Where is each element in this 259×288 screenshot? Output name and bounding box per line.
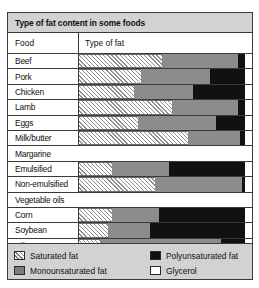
table-row: Emulsified	[8, 162, 252, 177]
glycerol-swatch-icon	[150, 266, 161, 275]
chart-legend: Saturated fat Polyunsaturated fat Monoun…	[8, 243, 252, 279]
bar-segment-gly	[245, 116, 252, 130]
row-label-beef: Beef	[8, 54, 78, 68]
chart-title-band: Type of fat content in some foods	[8, 13, 252, 33]
monounsaturated-swatch-icon	[14, 266, 25, 275]
bar-segment-gly	[245, 162, 252, 176]
bar-segment-mono	[138, 116, 216, 130]
bar-segment-gly	[245, 208, 252, 222]
bar-segment-sat	[79, 208, 112, 222]
row-bar-pork	[78, 69, 252, 83]
row-bar-lamb	[78, 100, 252, 114]
bar-segment-sat	[79, 131, 188, 145]
bar-segment-sat	[79, 177, 155, 191]
bar-segment-sat	[79, 100, 172, 114]
row-label-non-emulsified: Non-emulsified	[8, 177, 78, 191]
row-bar-non-emulsified	[78, 177, 252, 191]
row-bar-soybean	[78, 223, 252, 237]
bar-segment-poly	[238, 100, 245, 114]
bar-segment-poly	[193, 85, 245, 99]
column-header-type-of-fat: Type of fat	[78, 33, 252, 53]
legend-row-1: Saturated fat Polyunsaturated fat	[14, 248, 246, 263]
bar-segment-mono	[162, 54, 238, 68]
table-row: Eggs	[8, 116, 252, 131]
legend-row-2: Monounsaturated fat Glycerol	[14, 263, 246, 278]
table-row: Milk/butter	[8, 131, 252, 146]
table-row: Lamb	[8, 100, 252, 115]
row-bar-eggs	[78, 116, 252, 130]
row-label-milk-butter: Milk/butter	[8, 131, 78, 145]
legend-item-saturated: Saturated fat	[14, 251, 150, 261]
bar-segment-mono	[108, 223, 150, 237]
bar-segment-gly	[245, 69, 252, 83]
legend-label-polyunsaturated: Polyunsaturated fat	[166, 251, 238, 261]
row-label-corn: Corn	[8, 208, 78, 222]
column-header-food: Food	[8, 38, 78, 48]
bar-segment-mono	[112, 162, 169, 176]
legend-item-polyunsaturated: Polyunsaturated fat	[150, 251, 246, 261]
row-label-lamb: Lamb	[8, 100, 78, 114]
legend-item-glycerol: Glycerol	[150, 266, 246, 276]
row-bar-corn	[78, 208, 252, 222]
row-label-eggs: Eggs	[8, 116, 78, 130]
bar-segment-gly	[245, 131, 252, 145]
saturated-swatch-icon	[14, 251, 25, 260]
table-row: Beef	[8, 54, 252, 69]
table-row: Chicken	[8, 85, 252, 100]
group-header-vegetable-oils: Vegetable oils	[8, 193, 252, 208]
legend-label-saturated: Saturated fat	[30, 251, 78, 261]
fat-content-chart: Type of fat content in some foods Food T…	[7, 12, 253, 280]
row-bar-milk-butter	[78, 131, 252, 145]
table-row: Corn	[8, 208, 252, 223]
table-row: Non-emulsified	[8, 177, 252, 192]
row-label-soybean: Soybean	[8, 223, 78, 237]
bar-segment-poly	[150, 223, 245, 237]
bar-segment-mono	[155, 177, 242, 191]
row-label-pork: Pork	[8, 69, 78, 83]
bar-segment-poly	[169, 162, 245, 176]
row-bar-beef	[78, 54, 252, 68]
bar-segment-mono	[112, 208, 159, 222]
polyunsaturated-swatch-icon	[150, 251, 161, 260]
table-row: Soybean	[8, 223, 252, 238]
bar-segment-sat	[79, 69, 141, 83]
bar-segment-gly	[245, 85, 252, 99]
bar-segment-mono	[134, 85, 193, 99]
bar-segment-sat	[79, 223, 108, 237]
bar-segment-gly	[245, 223, 252, 237]
row-bar-emulsified	[78, 162, 252, 176]
bar-segment-gly	[245, 177, 252, 191]
group-header-margarine: Margarine	[8, 146, 252, 161]
bar-segment-sat	[79, 54, 162, 68]
group-spacer	[64, 193, 252, 207]
bar-segment-mono	[188, 131, 240, 145]
bar-segment-mono	[141, 69, 210, 83]
bar-segment-mono	[172, 100, 238, 114]
bar-segment-poly	[210, 69, 245, 83]
legend-item-monounsaturated: Monounsaturated fat	[14, 266, 150, 276]
row-bar-chicken	[78, 85, 252, 99]
bar-segment-gly	[245, 100, 252, 114]
table-row: Pork	[8, 69, 252, 84]
chart-rows: Beef Pork Chicken Lamb Eggs Milk/butter …	[8, 54, 252, 254]
group-label-vegetable-oils: Vegetable oils	[8, 193, 64, 207]
bar-segment-sat	[79, 85, 134, 99]
legend-label-monounsaturated: Monounsaturated fat	[30, 266, 107, 276]
bar-segment-sat	[79, 162, 112, 176]
page-title: Type of fat content in some foods	[15, 18, 145, 28]
column-header-row: Food Type of fat	[8, 33, 252, 54]
bar-segment-poly	[238, 54, 245, 68]
group-label-margarine: Margarine	[8, 146, 51, 160]
legend-label-glycerol: Glycerol	[166, 266, 197, 276]
bar-segment-gly	[245, 54, 252, 68]
bar-segment-sat	[79, 116, 138, 130]
row-label-emulsified: Emulsified	[8, 162, 78, 176]
row-label-chicken: Chicken	[8, 85, 78, 99]
bar-segment-poly	[216, 116, 245, 130]
bar-segment-poly	[159, 208, 246, 222]
group-spacer	[51, 146, 252, 160]
